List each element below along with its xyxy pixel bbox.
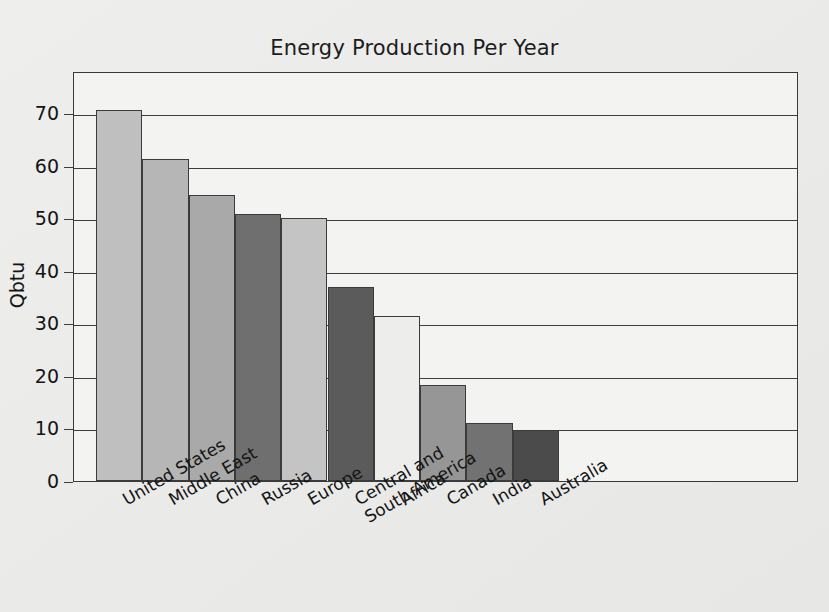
bar-series: [74, 73, 797, 481]
bar[interactable]: [142, 159, 188, 481]
chart-title: Energy Production Per Year: [0, 36, 829, 60]
y-tick-mark: [64, 219, 73, 220]
y-tick-mark: [64, 272, 73, 273]
y-tick-mark: [64, 114, 73, 115]
plot-area: [73, 72, 798, 482]
y-tick-label: 30: [19, 314, 59, 333]
y-tick-label: 0: [19, 472, 59, 491]
bar[interactable]: [96, 110, 142, 481]
y-tick-mark: [64, 429, 73, 430]
y-tick-mark: [64, 377, 73, 378]
y-tick-mark: [64, 324, 73, 325]
y-tick-label: 60: [19, 157, 59, 176]
y-tick-label: 40: [19, 262, 59, 281]
y-tick-label: 10: [19, 419, 59, 438]
y-tick-mark: [64, 482, 73, 483]
y-tick-label: 50: [19, 209, 59, 228]
y-tick-label: 20: [19, 367, 59, 386]
chart-figure: Energy Production Per Year Qbtu 01020304…: [0, 0, 829, 612]
bar[interactable]: [281, 218, 327, 481]
bar[interactable]: [235, 214, 281, 481]
y-tick-mark: [64, 167, 73, 168]
bar[interactable]: [328, 287, 374, 481]
y-tick-label: 70: [19, 104, 59, 123]
